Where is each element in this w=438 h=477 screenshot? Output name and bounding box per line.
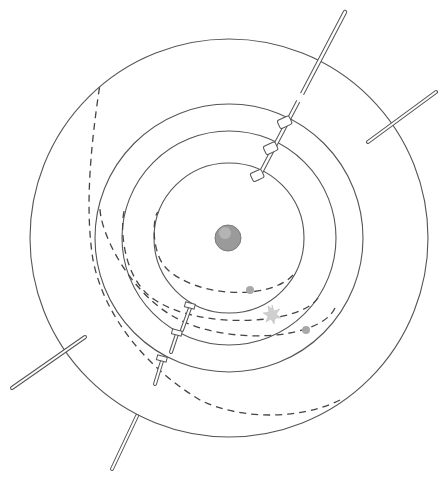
rocket-stack	[250, 12, 345, 182]
transfer-orbit-4	[89, 84, 340, 415]
rocket-gap	[298, 94, 302, 101]
rocket-stage-2	[263, 141, 279, 155]
stage-peg-2	[171, 329, 182, 352]
booster-right	[368, 92, 436, 142]
stage-peg-3	[155, 355, 167, 384]
transfer-orbit-2	[123, 208, 318, 320]
orbit-diagram: Orbital transfer diagram	[0, 0, 438, 477]
transfer-orbit-3	[100, 205, 335, 336]
central-body-highlight	[219, 227, 231, 239]
body-marker-1	[246, 286, 254, 294]
booster-bottom	[112, 416, 137, 469]
body-marker-2	[302, 326, 310, 334]
diagram-canvas	[0, 0, 438, 477]
rocket-stage-3	[277, 115, 293, 129]
transfer-orbit-1	[154, 212, 293, 292]
starburst-marker	[263, 305, 281, 324]
